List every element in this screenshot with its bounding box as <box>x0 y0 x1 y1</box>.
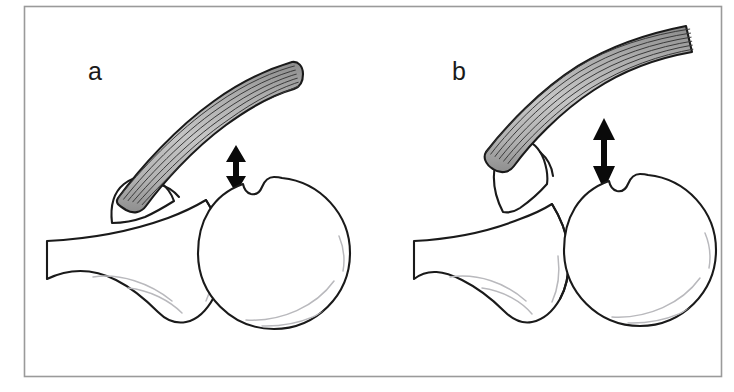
panel-a: a <box>47 57 350 329</box>
shoulder-anatomy-illustration: a <box>0 0 734 392</box>
panel-a-label: a <box>88 57 102 85</box>
acromiohumeral-distance-arrow-b <box>593 118 615 190</box>
humeral-head-b <box>564 174 716 326</box>
humeral-head-a <box>198 177 350 329</box>
supraspinatus-muscle-b <box>481 25 694 175</box>
figure-container: a <box>0 0 734 392</box>
scapula-body-b <box>414 204 569 322</box>
panel-b: b <box>414 25 716 326</box>
panel-b-label: b <box>452 57 466 85</box>
